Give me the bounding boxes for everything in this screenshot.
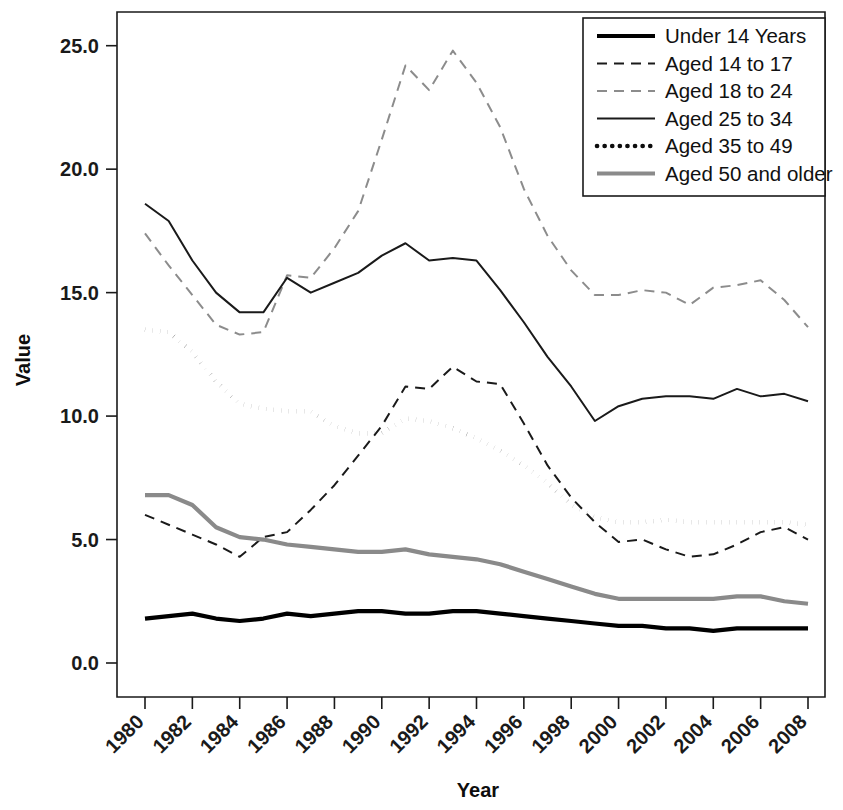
y-tick-label: 10.0 <box>60 405 99 427</box>
y-axis-title: Value <box>12 334 34 386</box>
chart-container: 0.05.010.015.020.025.0 19801982198419861… <box>0 0 843 810</box>
series-line-4 <box>145 330 808 525</box>
x-tick-label: 1998 <box>527 710 574 757</box>
y-tick-label: 0.0 <box>71 652 99 674</box>
x-tick-label: 1996 <box>480 710 527 757</box>
y-tick-label: 20.0 <box>60 158 99 180</box>
series-line-1 <box>145 367 808 557</box>
x-tick-label: 1980 <box>101 710 148 757</box>
legend-label-2: Aged 18 to 24 <box>665 79 793 102</box>
series-line-0 <box>145 611 808 631</box>
legend-label-5: Aged 50 and older <box>665 162 833 185</box>
x-tick-label: 2000 <box>574 710 621 757</box>
series-line-3 <box>145 204 808 421</box>
legend-label-0: Under 14 Years <box>665 24 806 47</box>
x-tick-label: 1982 <box>148 710 195 757</box>
x-tick-label: 2002 <box>622 710 669 757</box>
x-tick-label: 1988 <box>290 710 337 757</box>
x-tick-label: 2004 <box>669 710 717 758</box>
legend-label-1: Aged 14 to 17 <box>665 52 793 75</box>
y-tick-label: 25.0 <box>60 35 99 57</box>
x-tick-label: 1986 <box>243 710 290 757</box>
y-tick-label: 5.0 <box>71 529 99 551</box>
legend-label-4: Aged 35 to 49 <box>665 134 793 157</box>
x-tick-label: 1984 <box>196 710 244 758</box>
chart-legend: Under 14 YearsAged 14 to 17Aged 18 to 24… <box>583 18 833 196</box>
legend-label-3: Aged 25 to 34 <box>665 107 793 130</box>
y-tick-label: 15.0 <box>60 282 99 304</box>
x-tick-label: 1994 <box>432 710 480 758</box>
line-chart: 0.05.010.015.020.025.0 19801982198419861… <box>0 0 843 810</box>
series-line-5 <box>145 495 808 604</box>
x-tick-label: 2006 <box>716 710 763 757</box>
x-axis-title: Year <box>457 779 499 801</box>
x-tick-label: 1990 <box>338 710 385 757</box>
y-axis-ticks: 0.05.010.015.020.025.0 <box>60 35 117 674</box>
x-tick-label: 1992 <box>385 710 432 757</box>
x-axis-ticks: 1980198219841986198819901992199419961998… <box>101 697 811 757</box>
x-tick-label: 2008 <box>764 710 811 757</box>
